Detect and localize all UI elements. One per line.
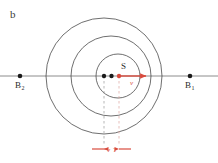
observer-b1-dot bbox=[188, 74, 193, 79]
observer-b2-subscript: 2 bbox=[22, 85, 25, 91]
panel-label: b bbox=[10, 8, 16, 20]
center-dot-middle bbox=[109, 74, 113, 78]
observer-b1-label: B bbox=[185, 80, 191, 90]
center-dot-outer bbox=[102, 74, 106, 78]
doppler-diagram-canvas: b B 2 B 1 S v v T bbox=[0, 0, 218, 163]
observer-b2-label: B bbox=[15, 80, 21, 90]
doppler-effect-figure: b B 2 B 1 S v v T bbox=[0, 0, 218, 163]
observer-b2-dot bbox=[18, 74, 23, 79]
observer-b1-subscript: 1 bbox=[192, 85, 195, 91]
source-label: S bbox=[121, 61, 126, 71]
